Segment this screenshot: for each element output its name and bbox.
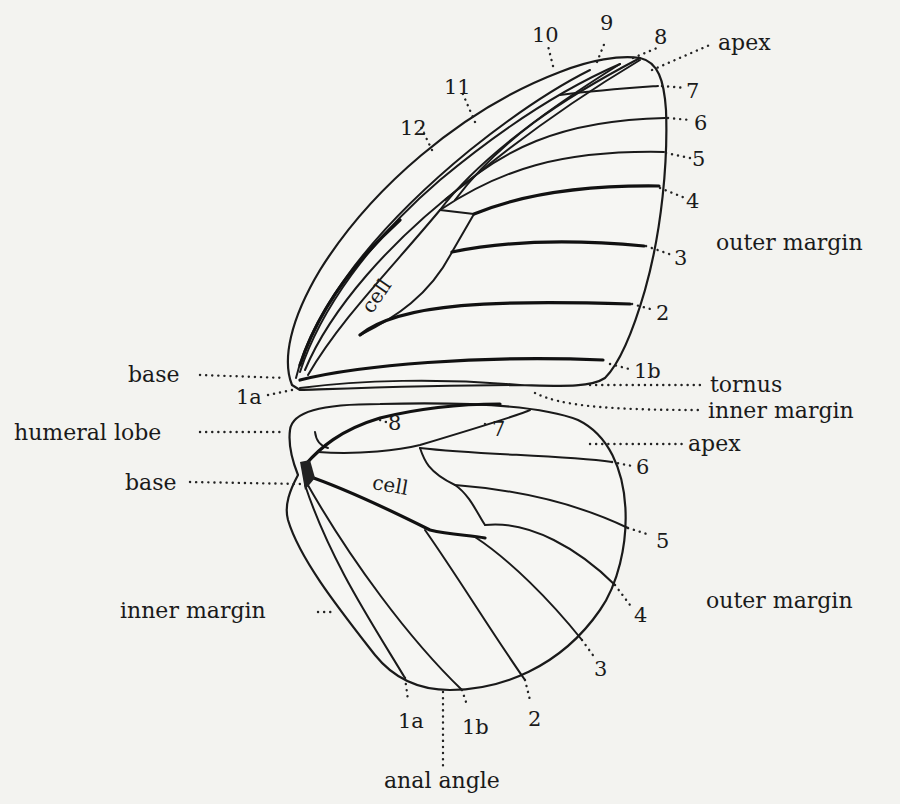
diagram-canvas: cell 10 9 8 apex 7 6 5 4 outer margin 3 … xyxy=(0,0,900,804)
hw-base-label: base xyxy=(125,470,177,495)
fw-vein-1a-label: 1a xyxy=(236,385,262,409)
hw-vein-3-label: 3 xyxy=(594,657,607,681)
fw-vein-9-label: 9 xyxy=(600,11,613,35)
hw-vein-5-label: 5 xyxy=(656,529,669,553)
hw-vein-1b-label: 1b xyxy=(462,715,489,739)
hw-inner-margin-label: inner margin xyxy=(120,598,266,623)
fw-vein-5-label: 5 xyxy=(692,147,705,171)
fw-vein-12-label: 12 xyxy=(400,116,427,140)
fw-vein-10-label: 10 xyxy=(532,23,559,47)
fw-vein-3-label: 3 xyxy=(674,246,687,270)
fw-inner-margin-label: inner margin xyxy=(708,398,854,423)
hw-vein-1a-label: 1a xyxy=(398,709,424,733)
hw-humeral-lobe-label: humeral lobe xyxy=(14,420,161,445)
hw-anal-angle-label: anal angle xyxy=(384,768,500,793)
fw-vein-7-label: 7 xyxy=(686,79,699,103)
fw-vein-1b-label: 1b xyxy=(634,359,661,383)
hindwing-outline xyxy=(287,403,626,690)
forewing: cell xyxy=(288,57,666,390)
fw-vein-11-label: 11 xyxy=(444,75,471,99)
hw-apex-label: apex xyxy=(688,431,741,456)
fw-tornus-label: tornus xyxy=(710,372,782,397)
hw-vein-7-label: 7 xyxy=(492,417,505,441)
hindwing: cell xyxy=(287,403,628,690)
hw-vein-2-label: 2 xyxy=(528,707,541,731)
fw-vein-4-label: 4 xyxy=(686,189,699,213)
wing-venation-diagram: cell 10 9 8 apex 7 6 5 4 outer margin 3 … xyxy=(0,0,900,804)
fw-vein-2-label: 2 xyxy=(656,301,669,325)
hw-vein-6-label: 6 xyxy=(636,455,649,479)
hw-outer-margin-label: outer margin xyxy=(706,588,853,613)
hw-vein-8-label: 8 xyxy=(388,411,401,435)
fw-outer-margin-label: outer margin xyxy=(716,230,863,255)
fw-apex-label: apex xyxy=(718,30,771,55)
forewing-outline xyxy=(288,57,666,390)
fw-vein-8-label: 8 xyxy=(654,25,667,49)
fw-vein-6-label: 6 xyxy=(694,111,707,135)
hw-vein-4-label: 4 xyxy=(634,603,647,627)
fw-base-label: base xyxy=(128,362,180,387)
